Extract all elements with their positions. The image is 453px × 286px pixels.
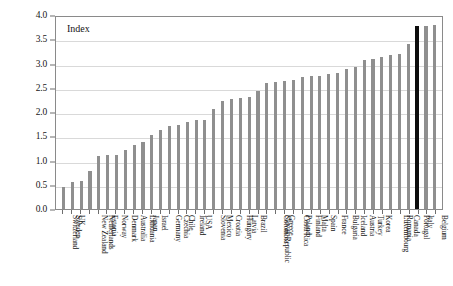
bar-slot bbox=[271, 17, 280, 209]
bar-australia[interactable] bbox=[133, 145, 136, 210]
bar-slot bbox=[386, 17, 395, 209]
bar-slovenia[interactable] bbox=[212, 109, 215, 209]
bar-austria[interactable] bbox=[363, 60, 366, 209]
x-axis-tick-mark bbox=[240, 210, 241, 214]
x-axis-tick-mark bbox=[115, 210, 116, 214]
bar-italy[interactable] bbox=[424, 26, 427, 209]
bar-slot bbox=[130, 17, 139, 209]
x-axis-label-slot: Luxembourg bbox=[387, 215, 396, 286]
bar-poland[interactable] bbox=[301, 77, 304, 209]
x-axis-tick-mark bbox=[249, 210, 250, 214]
bar-croatia[interactable] bbox=[230, 99, 233, 209]
bar-slot bbox=[236, 17, 245, 209]
bar-hungary[interactable] bbox=[239, 98, 242, 209]
x-axis-tick-mark bbox=[169, 210, 170, 214]
x-axis-label-slot: Canada bbox=[405, 215, 414, 286]
bar-new-zealand[interactable] bbox=[88, 171, 91, 209]
bar-netherlands[interactable] bbox=[97, 156, 100, 209]
bar-sweden[interactable] bbox=[71, 182, 74, 209]
x-axis-label-slot: Portugal bbox=[414, 215, 423, 286]
bar-iceland[interactable] bbox=[354, 67, 357, 209]
y-axis-tick-label: 2.0 bbox=[36, 108, 47, 118]
bar-czechia[interactable] bbox=[177, 125, 180, 209]
x-axis-label-slot: Netherlands bbox=[94, 215, 103, 286]
x-axis-tick-mark bbox=[409, 210, 410, 214]
x-axis-tick-mark bbox=[320, 210, 321, 214]
y-axis-tick-label: 3.0 bbox=[36, 60, 47, 70]
bar-france[interactable] bbox=[336, 73, 339, 209]
bar-latvia[interactable] bbox=[248, 97, 251, 209]
bar-slot bbox=[121, 17, 130, 209]
x-axis-tick-mark bbox=[213, 210, 214, 214]
bar-norway[interactable] bbox=[115, 155, 118, 209]
bar-usa[interactable] bbox=[203, 120, 206, 209]
x-axis-tick-mark bbox=[338, 210, 339, 214]
bar-mexico[interactable] bbox=[221, 101, 224, 209]
bar-slot bbox=[183, 17, 192, 209]
x-axis-tick-mark bbox=[222, 210, 223, 214]
bar-series bbox=[56, 17, 442, 209]
bar-slot bbox=[86, 17, 95, 209]
bar-uk[interactable] bbox=[80, 181, 83, 209]
y-axis-tick-label: 4.0 bbox=[36, 11, 47, 21]
chart-figure: 0.00.51.01.52.02.53.03.54.0 Index Switze… bbox=[0, 0, 453, 286]
x-axis-label-slot: Germany bbox=[165, 215, 174, 286]
bar-slot bbox=[360, 17, 369, 209]
x-axis-tick-mark bbox=[293, 210, 294, 214]
bar-belgium[interactable] bbox=[433, 25, 436, 209]
bar-costa-rica[interactable] bbox=[292, 80, 295, 209]
bar-luxembourg[interactable] bbox=[389, 55, 392, 209]
bar-switzerland[interactable] bbox=[62, 187, 65, 209]
bar-slot bbox=[209, 17, 218, 209]
x-axis-label-slot: Romania bbox=[396, 215, 405, 286]
bar-slot bbox=[245, 17, 254, 209]
bar-malta[interactable] bbox=[318, 76, 321, 209]
x-axis-label-slot: Switzerland bbox=[58, 215, 67, 286]
bar-bulgaria[interactable] bbox=[345, 69, 348, 209]
x-axis-label-slot: USA bbox=[200, 215, 209, 286]
x-axis-label-belgium: Belgium bbox=[441, 215, 448, 240]
x-axis-tick-mark bbox=[284, 210, 285, 214]
bar-israel[interactable] bbox=[159, 130, 162, 209]
bar-slot bbox=[377, 17, 386, 209]
x-axis-tick-mark bbox=[186, 210, 187, 214]
x-axis-tick-mark bbox=[204, 210, 205, 214]
bar-colombia[interactable] bbox=[274, 82, 277, 209]
bar-estonia[interactable] bbox=[106, 155, 109, 209]
bar-slot bbox=[262, 17, 271, 209]
bar-finland[interactable] bbox=[310, 76, 313, 209]
bar-slot bbox=[201, 17, 210, 209]
x-axis-tick-mark bbox=[346, 210, 347, 214]
bar-germany[interactable] bbox=[168, 126, 171, 209]
x-axis-tick-mark bbox=[124, 210, 125, 214]
bar-lithuania[interactable] bbox=[141, 142, 144, 209]
bar-denmark[interactable] bbox=[124, 150, 127, 209]
bar-slot bbox=[174, 17, 183, 209]
bar-spain[interactable] bbox=[327, 74, 330, 209]
bar-slot bbox=[94, 17, 103, 209]
bar-japan[interactable] bbox=[150, 135, 153, 209]
x-axis-tick-mark bbox=[275, 210, 276, 214]
bar-portugal[interactable] bbox=[415, 26, 418, 209]
bar-korea[interactable] bbox=[380, 57, 383, 209]
bar-slot bbox=[227, 17, 236, 209]
bar-romania[interactable] bbox=[398, 54, 401, 209]
bar-slot bbox=[324, 17, 333, 209]
x-axis-label-slot: Norway bbox=[111, 215, 120, 286]
bar-slovak-republic[interactable] bbox=[265, 83, 268, 209]
bar-slot bbox=[254, 17, 263, 209]
x-axis-label-slot: Poland bbox=[298, 215, 307, 286]
chart-title: Index bbox=[63, 22, 95, 36]
bar-chile[interactable] bbox=[186, 122, 189, 209]
bar-canada[interactable] bbox=[407, 44, 410, 209]
bar-slot bbox=[307, 17, 316, 209]
x-axis-label-slot: Greece bbox=[280, 215, 289, 286]
x-axis-tick-mark bbox=[373, 210, 374, 214]
y-axis-tick-label: 2.5 bbox=[36, 84, 47, 94]
bar-ireland[interactable] bbox=[195, 120, 198, 209]
bar-brazil[interactable] bbox=[256, 91, 259, 209]
bar-slot bbox=[289, 17, 298, 209]
x-axis-label-slot: Brazil bbox=[254, 215, 263, 286]
bar-turkey[interactable] bbox=[371, 59, 374, 209]
bar-greece[interactable] bbox=[283, 81, 286, 209]
